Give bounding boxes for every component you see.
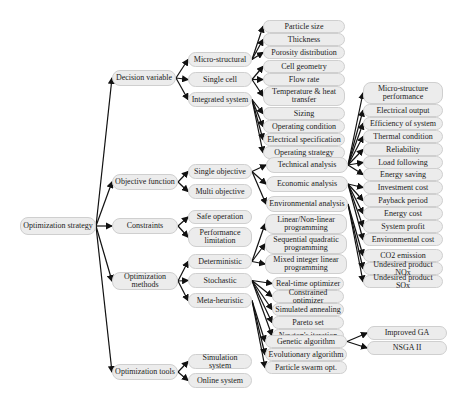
node-cg: Cell geometry [263,60,345,73]
node-pl: Performance limitation [188,227,252,247]
node-igA: Improved GA [367,326,447,340]
edge-ot-ons [178,372,188,381]
node-th2: Temperature & heat transfer [263,86,345,106]
edge-of-so [178,172,188,183]
node-esv: Energy saving [363,168,443,181]
node-th: Thickness [263,33,345,46]
edge-om-mh [178,281,188,301]
edge-sc-th2 [252,80,263,97]
edge-sc-cg [252,67,263,80]
node-es: Electrical specification [263,133,345,146]
node-oc: Operating condition [263,120,345,133]
node-ec: Energy cost [363,207,443,220]
edge-dv-sc [176,78,188,80]
node-sqp: Sequential quadratic programming [265,234,347,254]
node-om: Optimization methods [112,272,178,290]
node-of: Objective function [112,174,178,190]
node-sa: Simulated annealing [272,303,344,316]
node-ot: Optimization tools [112,364,178,380]
edge-de-mil [252,262,265,265]
node-ps: Particle size [263,20,345,33]
node-ga: Genetic algorithm [265,335,347,348]
edge-ga-igA [347,333,367,342]
node-sox: Undesired product SOx [363,275,443,288]
edge-root-ot [96,226,112,372]
node-eos: Efficiency of system [363,117,443,130]
node-is: Integrated system [188,92,252,107]
node-tc: Thermal condition [363,130,443,143]
edge-om-de [178,262,188,282]
node-mh: Meta-heuristic [188,293,252,308]
edge-ta-esv [348,165,363,175]
edge-dv-ms [176,60,188,79]
node-ons: Online system [188,373,252,388]
node-so: Single objective [188,164,252,179]
node-root: Optimization strategy [20,217,96,235]
node-nsga: NSGA II [367,341,447,355]
edge-co-pl [178,226,188,237]
edge-dv-is [176,78,188,100]
node-msp: Micro-structure performance [363,82,443,104]
edge-st-sa [252,281,272,310]
edge-root-om [96,226,112,281]
node-rel: Reliability [363,143,443,156]
node-pd: Porosity distribution [263,46,345,59]
node-pso: Particle swarm opt. [265,361,347,374]
edge-de-sqp [252,244,265,262]
node-ena: Environmental analysis [266,196,348,212]
node-dv: Decision variable [112,70,176,86]
optimization-strategy-diagram: Optimization strategyDecision variableOb… [0,0,467,407]
node-ic: Investment cost [363,181,443,194]
node-sfo: Safe operation [188,210,252,224]
node-ea: Economic analysis [266,176,348,192]
node-eva: Evolutionary algorithm [265,348,347,361]
node-mil: Mixed integer linear programming [265,254,347,274]
node-co: Constraints [112,218,178,234]
node-mo: Multi objective [188,184,252,199]
node-eo: Electrical output [363,104,443,117]
edge-ot-ss [178,362,188,373]
node-lnp: Linear/Non-linear programming [265,214,347,234]
node-ms: Micro-structural [188,52,252,67]
edge-om-st [178,281,188,282]
edge-so-ta [252,165,266,172]
node-ta: Technical analysis [266,157,348,173]
edge-ena-sox [348,204,363,282]
edge-so-ena [252,172,266,205]
edge-co-sfo [178,217,188,226]
edge-ta-tc [348,137,363,166]
node-pp: Payback period [363,194,443,207]
edge-de-lnp [252,224,265,262]
node-sz: Sizing [263,107,345,120]
edge-of-mo [178,182,188,192]
node-sc: Single cell [188,72,252,87]
node-cop: Constrained optimizer [272,290,344,303]
node-fr: Flow rate [263,73,345,86]
node-de: Deterministic [188,254,252,269]
node-enc: Environmental cost [363,233,443,246]
node-ss: Simulation system [188,354,252,369]
edge-ga-nsga [347,342,367,349]
node-pset: Pareto set [272,316,344,329]
node-sp: System profit [363,220,443,233]
node-st: Stochastic [188,273,252,288]
